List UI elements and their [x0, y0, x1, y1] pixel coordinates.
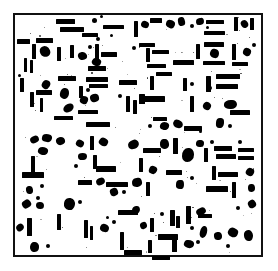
plot-border	[13, 13, 263, 257]
scan-speckle	[88, 54, 89, 55]
scan-speckle	[40, 219, 42, 221]
scan-speckle	[181, 100, 183, 102]
scan-speckle	[86, 247, 87, 248]
scan-speckle	[146, 251, 148, 253]
scan-speckle	[229, 252, 230, 253]
scan-speckle	[127, 247, 128, 248]
scan-speckle	[65, 58, 66, 59]
scan-speckle	[253, 168, 255, 170]
scan-speckle	[151, 117, 152, 118]
scan-speckle	[184, 132, 185, 133]
scan-speckle	[35, 110, 36, 111]
scan-speckle	[122, 61, 123, 62]
scan-speckle	[85, 105, 86, 106]
scan-speckle	[64, 84, 65, 85]
scan-speckle	[193, 52, 194, 53]
scan-speckle	[61, 76, 62, 77]
scan-speckle	[134, 88, 135, 89]
scan-speckle	[91, 72, 93, 74]
scan-speckle	[217, 155, 219, 157]
scan-speckle	[107, 68, 108, 69]
scan-speckle	[115, 127, 116, 128]
figure-root	[0, 0, 278, 271]
scan-speckle	[175, 52, 176, 53]
scan-speckle	[120, 162, 121, 163]
scan-speckle	[239, 69, 241, 71]
scan-speckle	[181, 52, 182, 53]
scan-speckle	[237, 43, 238, 44]
scan-speckle	[104, 53, 105, 54]
scan-speckle	[211, 71, 212, 72]
scan-speckle	[141, 196, 142, 197]
scan-speckle	[207, 102, 208, 103]
scan-speckle	[226, 34, 228, 36]
scan-speckle	[48, 139, 49, 140]
scan-speckle	[222, 98, 223, 99]
scan-speckle	[140, 129, 141, 130]
scan-speckle	[214, 97, 215, 98]
scan-speckle	[240, 73, 242, 75]
scan-speckle	[192, 207, 194, 209]
scan-speckle	[187, 177, 188, 178]
scan-speckle	[23, 191, 24, 192]
scan-speckle	[245, 179, 246, 180]
scan-speckle	[39, 35, 41, 37]
